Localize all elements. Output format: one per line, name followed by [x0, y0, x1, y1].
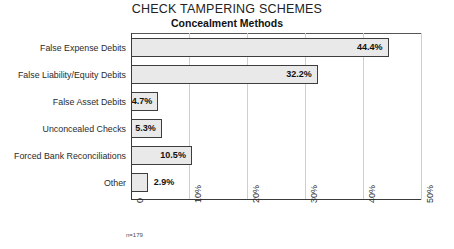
bar-value-label: 10.5%: [160, 146, 186, 165]
plot-top-rule: [131, 33, 421, 34]
bar-value-label: 32.2%: [286, 65, 312, 84]
bar-value-label: 2.9%: [154, 173, 175, 192]
x-tick-label-30: 30%: [309, 185, 319, 203]
x-axis-line: [131, 199, 421, 200]
x-tick-label-0: 0: [135, 198, 145, 203]
x-tick-label-10: 10%: [193, 185, 203, 203]
plot-area: 44.4%32.2%4.7%5.3%10.5%2.9%: [131, 33, 421, 200]
x-tick-label-20: 20%: [251, 185, 261, 203]
gridline-10: [189, 33, 190, 200]
bar-row[interactable]: 44.4%: [131, 38, 389, 57]
category-label: False Asset Debits: [9, 92, 126, 111]
sample-size-footnote: n=179: [126, 232, 143, 238]
category-label: Other: [9, 173, 126, 192]
chart-subtitle: Concealment Methods: [0, 17, 454, 30]
y-axis-line: [131, 33, 132, 200]
bar-value-label: 4.7%: [132, 92, 153, 111]
category-label: False Expense Debits: [9, 38, 126, 57]
x-tick-label-50: 50%: [425, 185, 435, 203]
category-label: False Liability/Equity Debits: [9, 65, 126, 84]
category-label: Forced Bank Reconciliations: [9, 146, 126, 165]
category-label: Unconcealed Checks: [9, 119, 126, 138]
bar-row[interactable]: 2.9%: [131, 173, 148, 192]
bar[interactable]: [131, 38, 389, 57]
gridline-50: [421, 33, 422, 200]
bar-row[interactable]: 10.5%: [131, 146, 192, 165]
bar-row[interactable]: 4.7%: [131, 92, 158, 111]
gridline-20: [247, 33, 248, 200]
gridline-30: [305, 33, 306, 200]
bar-row[interactable]: 5.3%: [131, 119, 162, 138]
chart-title: CHECK TAMPERING SCHEMES: [0, 2, 454, 16]
gridline-40: [363, 33, 364, 200]
x-tick-label-40: 40%: [367, 185, 377, 203]
bar[interactable]: [131, 173, 148, 192]
bar-value-label: 5.3%: [135, 119, 156, 138]
bar-row[interactable]: 32.2%: [131, 65, 318, 84]
bar-value-label: 44.4%: [357, 38, 383, 57]
chart-header: CHECK TAMPERING SCHEMES Concealment Meth…: [0, 2, 454, 30]
